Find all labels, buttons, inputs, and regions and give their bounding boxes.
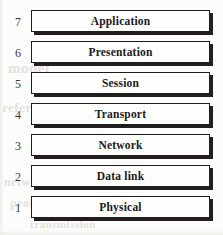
layer-box-application: Application bbox=[31, 10, 210, 32]
layer-box-presentation: Presentation bbox=[31, 41, 210, 63]
layer-box-transport: Transport bbox=[31, 103, 210, 125]
layer-box-session: Session bbox=[31, 72, 210, 94]
layer-number-2: 2 bbox=[0, 165, 26, 189]
layer-number-7: 7 bbox=[0, 10, 26, 34]
layer-label-physical: Physical bbox=[32, 197, 209, 217]
layer-row: 7 Application bbox=[0, 10, 223, 34]
layer-number-1: 1 bbox=[0, 196, 26, 220]
layer-label-network: Network bbox=[32, 135, 209, 155]
layer-number-5: 5 bbox=[0, 72, 26, 96]
layer-row: 2 Data link bbox=[0, 165, 223, 189]
layer-row: 4 Transport bbox=[0, 103, 223, 127]
layer-number-3: 3 bbox=[0, 134, 26, 158]
layer-label-session: Session bbox=[32, 73, 209, 93]
osi-layer-stack: 7 Application 6 Presentation 5 Session 4… bbox=[0, 10, 223, 227]
layer-row: 3 Network bbox=[0, 134, 223, 158]
layer-row: 6 Presentation bbox=[0, 41, 223, 65]
layer-label-data-link: Data link bbox=[32, 166, 209, 186]
layer-box-physical: Physical bbox=[31, 196, 210, 218]
layer-label-presentation: Presentation bbox=[32, 42, 209, 62]
layer-label-transport: Transport bbox=[32, 104, 209, 124]
layer-row: 5 Session bbox=[0, 72, 223, 96]
layer-row: 1 Physical bbox=[0, 196, 223, 220]
layer-number-6: 6 bbox=[0, 41, 26, 65]
layer-box-data-link: Data link bbox=[31, 165, 210, 187]
layer-number-4: 4 bbox=[0, 103, 26, 127]
page-bottom-edge-shading bbox=[0, 230, 223, 235]
layer-label-application: Application bbox=[32, 11, 209, 31]
layer-box-network: Network bbox=[31, 134, 210, 156]
